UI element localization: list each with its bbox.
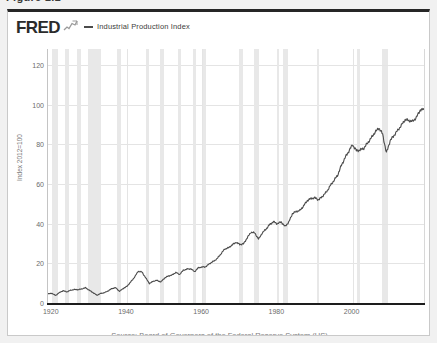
fred-graph-frame: FRED Industrial Production Index Index 2…: [7, 9, 430, 336]
plot-wrapper: Index 2012=100 020406080100120 192019401…: [8, 42, 430, 336]
y-axis-tick-100: 100: [10, 101, 44, 108]
cut-off-caption-text: Figure 1.1: [6, 0, 61, 3]
y-axis-tick-20: 20: [10, 260, 44, 267]
y-axis-tick-labels: 020406080100120: [8, 49, 44, 303]
x-axis-tick-1960: 1960: [193, 308, 209, 315]
source-note: Source: Board of Governors of the Federa…: [8, 331, 430, 336]
fred-logo: FRED: [16, 19, 60, 36]
fred-graph-header: FRED Industrial Production Index: [8, 12, 429, 42]
fred-chart-mark-icon: [63, 20, 78, 32]
plot-area: [47, 49, 425, 303]
cut-off-caption-sliver: Figure 1.1: [0, 0, 437, 9]
y-axis-tick-0: 0: [10, 300, 44, 307]
y-axis-tick-120: 120: [10, 61, 44, 68]
legend-swatch-industrial-production-index: [84, 26, 93, 28]
industrial-production-index-line: [48, 49, 424, 303]
chart-legend: Industrial Production Index: [84, 22, 190, 31]
y-axis-tick-40: 40: [10, 220, 44, 227]
x-axis-tick-1940: 1940: [118, 308, 134, 315]
x-axis-tick-labels: 19201940196019802000: [47, 308, 423, 320]
legend-label-industrial-production-index: Industrial Production Index: [97, 22, 190, 31]
y-axis-tick-80: 80: [10, 141, 44, 148]
y-axis-tick-60: 60: [10, 180, 44, 187]
x-axis-rule: [47, 303, 425, 305]
x-axis-tick-1980: 1980: [269, 308, 285, 315]
x-axis-tick-2000: 2000: [344, 308, 360, 315]
x-axis-tick-1920: 1920: [43, 308, 59, 315]
